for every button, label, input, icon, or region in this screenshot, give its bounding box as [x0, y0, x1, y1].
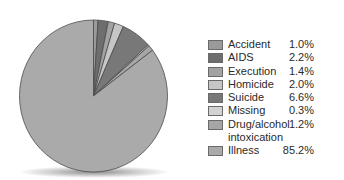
legend-value: 2.0% — [289, 78, 314, 91]
legend-swatch — [208, 146, 223, 156]
legend-value: 85.2% — [283, 144, 314, 157]
legend-value: 6.6% — [289, 91, 314, 104]
legend-item: Missing0.3% — [208, 104, 338, 117]
legend-swatch — [208, 93, 223, 103]
legend-value: 0.3% — [289, 104, 314, 117]
legend-swatch — [208, 53, 223, 63]
pie-slices — [20, 20, 168, 172]
legend-swatch — [208, 106, 223, 116]
legend-swatch — [208, 67, 223, 77]
legend-item: AIDS2.2% — [208, 51, 338, 64]
legend-swatch — [208, 40, 223, 50]
legend-value: 1.0% — [289, 38, 314, 51]
legend-swatch — [208, 80, 223, 90]
pie-chart — [0, 0, 190, 180]
legend-item: Suicide6.6% — [208, 91, 338, 104]
legend: Accident1.0%AIDS2.2%Execution1.4%Homicid… — [208, 38, 338, 158]
legend-value: 2.2% — [289, 51, 314, 64]
legend-value: 1.4% — [289, 65, 314, 78]
legend-item: Illness85.2% — [208, 144, 338, 157]
legend-value: 1.2% — [289, 118, 314, 131]
legend-item: Homicide2.0% — [208, 78, 338, 91]
legend-item: Drug/alcohol intoxication1.2% — [208, 118, 338, 145]
legend-swatch — [208, 120, 223, 130]
legend-item: Accident1.0% — [208, 38, 338, 51]
legend-item: Execution1.4% — [208, 65, 338, 78]
